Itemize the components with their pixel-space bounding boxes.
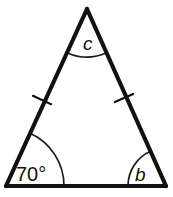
geometry-figure: c 70° b [0, 0, 173, 197]
triangle-diagram: c 70° b [0, 0, 173, 197]
triangle-side-left [6, 9, 87, 186]
angle-label-70-degrees: 70° [16, 163, 46, 185]
angle-label-c: c [83, 33, 93, 54]
angle-label-b: b [135, 164, 146, 185]
